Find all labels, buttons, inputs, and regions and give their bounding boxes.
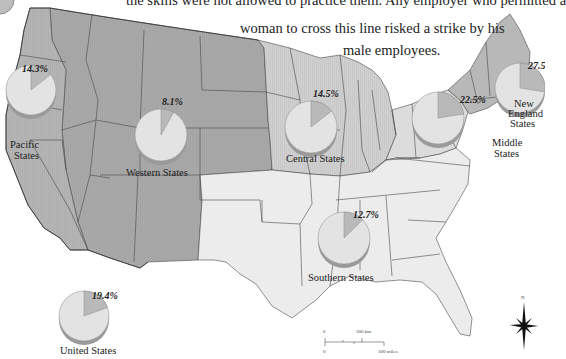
caption-line1: the skills were not allowed to practice … [126,0,566,8]
label-middle-line2: States [494,148,519,159]
compass-north-label: N [521,295,525,300]
label-us: United States [60,345,116,356]
caption-line2: woman to cross this line risked a strike… [240,21,505,36]
label-western: Western States [126,167,188,178]
pie-percent-label: 14.3% [22,63,48,74]
pie-percent-label: 22.5% [459,94,486,105]
label-pacific-line1: Pacific [10,139,39,150]
scale-mi-zero: 0 [323,349,326,354]
pie-percent-label: 8.1% [162,96,183,107]
scale-bar: 0 300 km 0 300 miles [323,329,398,354]
scale-km-zero: 0 [323,329,326,334]
pie-percent-label: 27.5% [527,60,545,71]
corner-badge [0,0,14,14]
pie-middle: 22.5% [412,92,486,148]
label-central: Central States [286,153,345,164]
pie-us: 19.4% [59,290,118,345]
label-newengland-line3: States [510,118,535,129]
label-southern: Southern States [308,272,374,283]
pie-percent-label: 19.4% [92,290,118,301]
label-middle-line1: Middle [492,137,523,148]
scale-mi-label: 300 miles [378,349,398,354]
scale-km-label: 300 km [356,329,371,334]
compass-rose-icon: N [510,295,538,350]
caption-line3: male employees. [343,43,440,58]
label-pacific-line2: States [14,150,39,161]
pie-percent-label: 12.7% [353,209,379,220]
pie-percent-label: 14.5% [313,88,339,99]
